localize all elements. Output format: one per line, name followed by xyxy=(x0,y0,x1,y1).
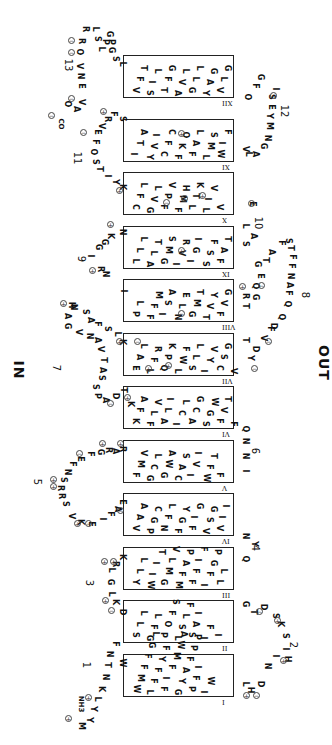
helix-residue: F xyxy=(149,303,157,308)
helix-residue: G xyxy=(209,68,217,75)
positive-charge-icon: + xyxy=(116,187,123,194)
helix-residue: L xyxy=(195,65,203,70)
helix-residue: S xyxy=(209,132,217,138)
helix-residue: F xyxy=(223,129,231,134)
helix-residue: L xyxy=(163,407,171,412)
helix-residue: M xyxy=(164,567,172,575)
loop-residue: G xyxy=(107,46,115,55)
helix-residue: I xyxy=(185,474,193,477)
loop-residue: Y xyxy=(265,112,273,121)
helix-residue: F xyxy=(135,193,143,198)
helix-residue: I xyxy=(193,559,201,562)
helix-residue: V xyxy=(205,303,213,309)
loop-number-label: 3 xyxy=(84,580,94,586)
helix-residue: F xyxy=(131,472,139,477)
helix-number-label: V xyxy=(222,484,227,491)
loop-residue: L xyxy=(97,45,105,54)
helix-residue: F xyxy=(145,421,153,426)
helix-residue: F xyxy=(205,571,213,576)
helix-residue: M xyxy=(136,674,144,682)
helix-XII: VFTSILTFGAVLGLLYAGVLG xyxy=(123,55,234,98)
loop-residue: N xyxy=(286,272,294,281)
helix-residue: N xyxy=(159,525,167,532)
positive-charge-icon: + xyxy=(102,597,109,604)
loop-residue: A xyxy=(285,281,293,290)
helix-residue: I xyxy=(193,452,201,455)
helix-residue: G xyxy=(187,311,195,318)
helix-residue: F xyxy=(215,418,223,423)
helix-residue: A xyxy=(181,560,189,566)
negative-charge-icon: − xyxy=(68,95,75,102)
loop-residue: F xyxy=(106,510,114,519)
helix-residue: A xyxy=(205,79,213,85)
loop-residue: V xyxy=(67,512,75,521)
loop-number-label: 4 xyxy=(250,545,260,551)
positive-charge-icon: + xyxy=(199,192,206,199)
loop-residue: D xyxy=(251,345,259,354)
helix-residue: V xyxy=(201,528,209,534)
helix-residue: F xyxy=(187,579,195,584)
helix-residue: A xyxy=(135,514,143,520)
loop-number-label: 8 xyxy=(300,292,310,298)
helix-residue: C xyxy=(149,464,157,470)
helix-residue: F xyxy=(159,686,167,691)
loop-residue: G xyxy=(106,578,114,587)
loop-residue: N xyxy=(241,452,249,461)
helix-residue: F xyxy=(215,258,223,263)
helix-residue: V xyxy=(149,143,157,149)
helix-residue: I xyxy=(213,634,221,637)
loop-residue: N xyxy=(241,532,249,541)
loop-number-label: 7 xyxy=(51,365,61,371)
helix-residue: A xyxy=(181,667,189,673)
helix-residue: A xyxy=(159,418,167,424)
helix-residue: F xyxy=(177,571,185,576)
helix-residue: F xyxy=(209,239,217,244)
helix-residue: L xyxy=(153,453,161,458)
helix-residue: F xyxy=(163,514,171,519)
helix-residue: L xyxy=(219,76,227,81)
helix-residue: I xyxy=(199,637,207,640)
positive-charge-icon: + xyxy=(50,483,57,490)
positive-charge-icon: + xyxy=(107,221,114,228)
helix-residue: I xyxy=(147,81,155,84)
helix-residue: C xyxy=(173,475,181,481)
helix-residue: L xyxy=(149,250,157,255)
helix-residue: I xyxy=(217,516,225,519)
loop-residue: N xyxy=(105,650,113,659)
helix-residue: H xyxy=(181,185,189,192)
helix-residue: S xyxy=(187,365,195,371)
loop-residue: S xyxy=(91,158,99,167)
loop-residue: R xyxy=(77,37,85,46)
loop-residue: K xyxy=(118,553,126,562)
loop-residue: P xyxy=(93,392,101,401)
loop-residue: A xyxy=(98,366,106,375)
helix-residue: L xyxy=(139,182,147,187)
negative-charge-icon: − xyxy=(68,49,75,56)
loop-number-label: 5 xyxy=(32,479,42,485)
loop-residue: S xyxy=(111,55,119,64)
helix-number-label: X xyxy=(222,216,227,223)
loop-residue: V xyxy=(96,345,104,354)
loop-residue: R xyxy=(241,292,249,301)
helix-residue: G xyxy=(159,579,167,586)
loop-residue: S xyxy=(118,115,126,124)
helix-residue: G xyxy=(149,517,157,524)
loop-residue: V xyxy=(74,328,82,337)
helix-residue: F xyxy=(161,645,169,650)
loop-residue: S xyxy=(59,476,67,485)
loop-residue: S xyxy=(93,35,101,44)
loop-residue: G xyxy=(63,322,71,331)
helix-residue: L xyxy=(149,410,157,415)
helix-residue: S xyxy=(201,421,209,427)
helix-residue: V xyxy=(131,87,139,93)
helix-residue: I xyxy=(171,423,179,426)
helix-residue: K xyxy=(167,343,175,349)
helix-residue: V xyxy=(215,87,223,93)
helix-residue: Y xyxy=(201,90,209,96)
loop-residue: I xyxy=(241,467,249,476)
loop-residue: N xyxy=(63,468,71,477)
positive-charge-icon: + xyxy=(181,195,188,202)
helix-residue: F xyxy=(185,602,193,607)
loop-residue: D xyxy=(118,608,126,617)
helix-residue: R xyxy=(153,346,161,352)
